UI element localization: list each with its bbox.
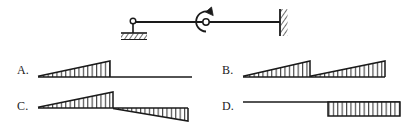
option-c-svg <box>30 86 200 126</box>
diagram-canvas: A. B. <box>0 0 407 130</box>
option-d-svg <box>236 92 404 126</box>
option-b-label: B. <box>222 64 233 76</box>
option-c-diagram <box>30 86 200 126</box>
beam-structure <box>0 0 407 50</box>
beam-svg <box>0 0 407 50</box>
ground-hatching <box>121 34 147 40</box>
pin-circle <box>130 18 136 24</box>
option-d-label: D. <box>222 100 234 112</box>
option-c-hatch-negative <box>113 86 188 126</box>
fixed-support <box>280 9 288 36</box>
option-b-diagram <box>236 52 401 84</box>
option-a-svg <box>30 52 200 84</box>
internal-hinge <box>203 19 209 25</box>
option-a-label: A. <box>17 64 29 76</box>
hinge-circle <box>203 19 209 25</box>
wall-hatching <box>281 9 288 36</box>
option-c-label: C. <box>17 100 28 112</box>
option-a-diagram <box>30 52 200 84</box>
option-b-svg <box>236 52 401 84</box>
moment-arrowhead <box>206 7 214 16</box>
option-d-hatch <box>328 102 400 116</box>
option-c-hatch-positive <box>38 86 113 126</box>
option-d-diagram <box>236 92 404 126</box>
